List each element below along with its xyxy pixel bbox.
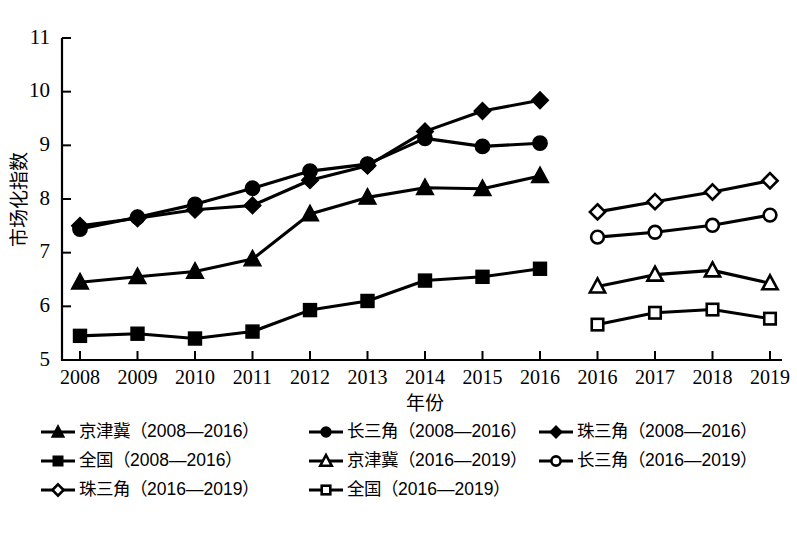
data-point-marker [764, 209, 777, 222]
data-point-marker [304, 304, 317, 317]
data-point-marker [649, 226, 662, 239]
x-axis-tick-label: 2014 [405, 366, 445, 388]
y-axis-title: 市场化指数 [9, 152, 30, 247]
data-point-marker [762, 173, 777, 188]
legend-item-label: 珠三角（2016—2019） [79, 476, 259, 503]
data-point-marker [474, 103, 491, 120]
legend-item[interactable]: 长三角（2008—2016） [308, 418, 538, 445]
data-point-marker [531, 167, 548, 183]
x-axis-tick-label: 2013 [348, 366, 388, 388]
y-axis-tick-label: 9 [40, 132, 51, 156]
legend-marker-square-hollow-icon [308, 479, 344, 501]
data-point-marker [532, 92, 549, 109]
data-point-marker [649, 307, 661, 319]
series-line [598, 215, 771, 237]
data-point-marker [419, 274, 432, 287]
y-axis-tick-label: 8 [40, 186, 51, 210]
y-axis-tick-label: 7 [40, 239, 51, 263]
x-axis-tick-label: 2019 [750, 366, 790, 388]
y-axis-tick-label: 11 [30, 25, 50, 49]
x-axis-tick-label: 2017 [635, 366, 675, 388]
legend-marker-diamond-hollow-icon [40, 479, 76, 501]
legend-marker-triangle-filled-icon [40, 421, 76, 443]
legend-marker-diamond-filled-icon [538, 421, 574, 443]
x-axis-tick-label: 2016 [578, 366, 618, 388]
chart-legend: 京津冀（2008—2016）长三角（2008—2016）珠三角（2008—201… [40, 418, 780, 505]
legend-item-label: 京津冀（2008—2016） [79, 418, 259, 445]
data-point-marker [476, 270, 489, 283]
legend-item-label: 全国（2008—2016） [79, 447, 242, 474]
legend-item-label: 全国（2016—2019） [347, 476, 510, 503]
legend-marker-square-filled-icon [40, 450, 76, 472]
legend-item[interactable]: 长三角（2016—2019） [538, 447, 778, 474]
chart-plot-area: 1110987652008200920102011201220132014201… [0, 0, 797, 415]
x-axis-tick-label: 2015 [463, 366, 503, 388]
legend-item[interactable]: 全国（2016—2019） [308, 476, 538, 503]
series-line [598, 181, 771, 212]
legend-marker-triangle-hollow-icon [308, 450, 344, 472]
legend-item[interactable]: 京津冀（2016—2019） [308, 447, 538, 474]
x-axis-title: 年份 [406, 393, 444, 414]
series-line [80, 176, 540, 282]
y-axis-tick-label: 5 [40, 347, 51, 371]
series-line [598, 270, 771, 286]
data-point-marker [246, 325, 259, 338]
x-axis-tick-label: 2010 [175, 366, 215, 388]
legend-item-label: 京津冀（2016—2019） [347, 447, 527, 474]
data-point-marker [131, 327, 144, 340]
data-point-marker [361, 294, 374, 307]
data-point-marker [74, 329, 87, 342]
series-markers [71, 92, 777, 345]
x-axis-tick-label: 2011 [233, 366, 272, 388]
legend-marker-circle-hollow-icon [538, 450, 574, 472]
data-point-marker [590, 204, 605, 219]
data-point-marker [706, 219, 719, 232]
data-point-marker [592, 319, 604, 331]
legend-item[interactable]: 珠三角（2016—2019） [40, 476, 308, 503]
legend-item-label: 长三角（2008—2016） [347, 418, 527, 445]
x-axis-tick-label: 2008 [60, 366, 100, 388]
legend-item[interactable]: 珠三角（2008—2016） [538, 418, 778, 445]
x-axis-tick-label: 2012 [290, 366, 330, 388]
data-point-marker [534, 262, 547, 275]
chart-figure: 1110987652008200920102011201220132014201… [0, 0, 797, 536]
data-point-marker [705, 184, 720, 199]
data-point-marker [591, 231, 604, 244]
legend-item-label: 珠三角（2008—2016） [577, 418, 757, 445]
data-point-marker [475, 139, 489, 153]
data-point-marker [245, 181, 259, 195]
data-point-marker [533, 136, 547, 150]
x-axis-tick-label: 2016 [520, 366, 560, 388]
data-point-marker [647, 194, 662, 209]
data-point-marker [707, 304, 719, 316]
x-axis-tick-label: 2009 [118, 366, 158, 388]
legend-item-label: 长三角（2016—2019） [577, 447, 757, 474]
data-point-marker [764, 313, 776, 325]
legend-item[interactable]: 京津冀（2008—2016） [40, 418, 308, 445]
legend-marker-circle-filled-icon [308, 421, 344, 443]
series-line [598, 310, 771, 325]
data-point-marker [189, 332, 202, 345]
y-axis-tick-label: 6 [40, 293, 51, 317]
x-axis-tick-label: 2018 [693, 366, 733, 388]
data-point-marker [244, 197, 261, 214]
y-axis-tick-label: 10 [29, 78, 50, 102]
legend-item[interactable]: 全国（2008—2016） [40, 447, 308, 474]
